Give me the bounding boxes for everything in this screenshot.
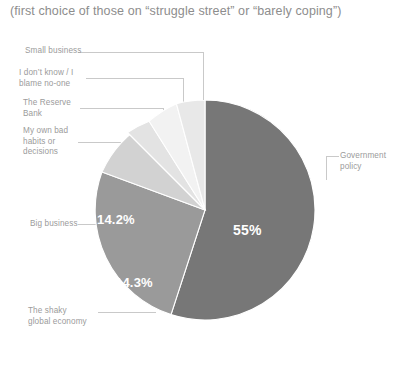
callout-government-line2: policy: [340, 162, 404, 173]
callout-government-policy: Government policy: [340, 151, 404, 172]
callout-own-habits-line1: My own bad: [23, 126, 83, 137]
pie-chart: 55% 14.3% 14.2%: [95, 100, 315, 320]
leader-line-small-business-horizontal: [78, 52, 203, 53]
callout-big-business-text: Big business: [30, 219, 86, 230]
chart-subtitle: (first choice of those on “struggle stre…: [10, 3, 402, 19]
leader-line-government-policy-vertical: [326, 156, 327, 180]
callout-shaky-global-economy: The shaky global economy: [28, 306, 102, 327]
callout-own-habits-line2: habits or: [23, 137, 83, 148]
callout-big-business: Big business: [30, 219, 86, 230]
callout-shaky-line1: The shaky: [28, 306, 102, 317]
pie-value-big-business: 14.2%: [97, 212, 135, 227]
callout-small-business: Small business: [25, 46, 85, 57]
leader-line-small-business-vertical: [203, 52, 204, 107]
callout-government-line1: Government: [340, 151, 404, 162]
chart-canvas: (first choice of those on “struggle stre…: [0, 0, 409, 380]
callout-dont-know-line1: I don’t know / I: [19, 68, 89, 79]
callout-own-habits-line3: decisions: [23, 147, 83, 158]
callout-own-bad-habits: My own bad habits or decisions: [23, 126, 83, 158]
callout-dont-know: I don’t know / I blame no-one: [19, 68, 89, 89]
callout-reserve-bank: The Reserve Bank: [23, 98, 83, 119]
callout-small-business-text: Small business: [25, 46, 85, 57]
callout-reserve-bank-line1: The Reserve: [23, 98, 83, 109]
pie-value-shaky-global-economy: 14.3%: [115, 275, 153, 290]
callout-shaky-line2: global economy: [28, 317, 102, 328]
callout-dont-know-line2: blame no-one: [19, 79, 89, 90]
callout-reserve-bank-line2: Bank: [23, 109, 83, 120]
leader-line-dont-know-horizontal: [86, 78, 183, 79]
leader-line-government-policy-horizontal: [326, 156, 339, 157]
pie-value-government-policy: 55%: [233, 222, 262, 238]
